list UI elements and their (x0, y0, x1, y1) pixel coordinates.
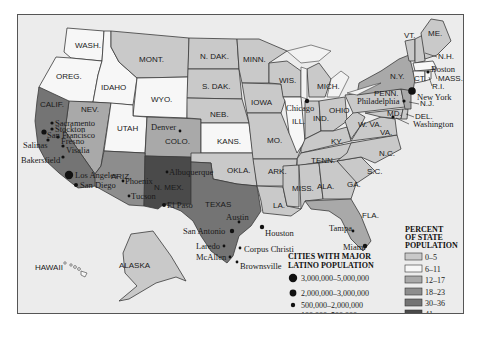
svg-text:POPULATION: POPULATION (405, 241, 458, 250)
svg-text:Los Angeles: Los Angeles (75, 170, 117, 180)
svg-text:OREG.: OREG. (56, 72, 82, 81)
svg-text:18–23: 18–23 (425, 288, 445, 297)
svg-text:COLO.: COLO. (165, 137, 190, 146)
svg-text:Corpus Christi: Corpus Christi (244, 244, 294, 254)
svg-text:IND.: IND. (313, 114, 329, 123)
svg-text:ILL.: ILL. (292, 117, 305, 126)
svg-text:ME.: ME. (428, 29, 442, 38)
svg-text:N. MEX.: N. MEX. (154, 183, 184, 192)
svg-text:WYO.: WYO. (151, 95, 172, 104)
svg-text:MICH.: MICH. (317, 82, 340, 91)
svg-text:Boston: Boston (431, 64, 456, 74)
svg-text:Laredo: Laredo (196, 241, 220, 251)
svg-text:Bakersfield: Bakersfield (21, 155, 61, 165)
svg-text:Tucson: Tucson (131, 191, 156, 201)
svg-text:Tampa: Tampa (329, 223, 352, 233)
svg-text:Phoenix: Phoenix (125, 176, 154, 186)
svg-text:IDAHO: IDAHO (101, 83, 126, 92)
percent-legend: PERCENT OF STATE POPULATION 0–5 6–11 12–… (405, 225, 458, 314)
svg-text:San Diego: San Diego (80, 180, 116, 190)
svg-text:MISS.: MISS. (292, 184, 314, 193)
svg-text:Houston: Houston (265, 228, 295, 238)
svg-text:Philadelphia: Philadelphia (357, 96, 400, 106)
svg-text:TEXAS: TEXAS (205, 200, 231, 209)
svg-text:MO.: MO. (267, 136, 282, 145)
svg-text:Miami: Miami (343, 242, 366, 252)
svg-text:W. VA.: W. VA. (358, 120, 382, 129)
state-hawaii (64, 262, 87, 277)
svg-text:KANS.: KANS. (217, 137, 241, 146)
us-map: WASH. OREG. IDAHO MONT. WYO. N. DAK. S. … (18, 15, 464, 314)
svg-text:N.Y.: N.Y. (390, 72, 405, 81)
svg-text:NEB.: NEB. (210, 110, 229, 119)
svg-text:LATINO POPULATION: LATINO POPULATION (288, 261, 374, 270)
svg-text:KY.: KY. (331, 137, 343, 146)
svg-text:MASS.: MASS. (438, 74, 463, 83)
svg-text:41: 41 (425, 310, 433, 314)
svg-text:LA.: LA. (273, 201, 285, 210)
svg-text:Austin: Austin (226, 212, 249, 222)
svg-text:MONT.: MONT. (139, 55, 164, 64)
svg-text:Salinas: Salinas (23, 140, 48, 150)
svg-text:30–36: 30–36 (425, 299, 445, 308)
svg-text:12–17: 12–17 (425, 276, 445, 285)
svg-text:0–5: 0–5 (425, 253, 437, 262)
svg-text:R.I.: R.I. (432, 82, 444, 91)
svg-text:ALA.: ALA. (317, 182, 334, 191)
svg-text:Denver: Denver (151, 122, 176, 132)
svg-text:El Paso: El Paso (167, 200, 193, 210)
svg-text:N. DAK.: N. DAK. (200, 52, 229, 61)
svg-text:IOWA: IOWA (251, 98, 273, 107)
svg-text:Brownsville: Brownsville (240, 261, 282, 271)
city-size-legend: CITIES WITH MAJOR LATINO POPULATION 3,00… (288, 252, 374, 314)
svg-text:Visalia: Visalia (66, 145, 90, 155)
map-frame: WASH. OREG. IDAHO MONT. WYO. N. DAK. S. … (17, 14, 464, 314)
state-michigan (307, 63, 331, 97)
svg-text:100,000–500,000: 100,000–500,000 (301, 311, 357, 314)
svg-text:VT.: VT. (404, 31, 416, 40)
svg-text:N.H.: N.H. (438, 52, 454, 61)
svg-text:6–11: 6–11 (425, 265, 441, 274)
svg-text:NEV.: NEV. (81, 105, 99, 114)
svg-text:S. DAK.: S. DAK. (202, 82, 230, 91)
svg-text:VA.: VA. (380, 128, 392, 137)
svg-text:S.C.: S.C. (367, 167, 383, 176)
svg-text:ALASKA: ALASKA (119, 261, 151, 270)
svg-text:500,000–2,000,000: 500,000–2,000,000 (301, 301, 363, 310)
svg-text:WASH.: WASH. (75, 41, 101, 50)
svg-text:2,000,000–3,000,000: 2,000,000–3,000,000 (301, 289, 369, 298)
svg-text:CITIES WITH MAJOR: CITIES WITH MAJOR (288, 252, 371, 261)
svg-text:Albuquerque: Albuquerque (169, 167, 214, 177)
svg-text:TENN.: TENN. (311, 156, 335, 165)
svg-text:UTAH: UTAH (117, 124, 138, 133)
svg-text:OKLA.: OKLA. (227, 166, 251, 175)
svg-text:OHIO: OHIO (329, 106, 349, 115)
svg-text:CALIF.: CALIF. (40, 100, 64, 109)
svg-text:New York: New York (417, 92, 452, 102)
svg-text:HAWAII: HAWAII (35, 263, 63, 272)
svg-text:ARK.: ARK. (268, 167, 287, 176)
svg-text:Chicago: Chicago (286, 103, 314, 113)
svg-text:GA.: GA. (347, 180, 361, 189)
svg-text:CT.: CT. (414, 74, 426, 83)
svg-text:San Antonio: San Antonio (183, 226, 225, 236)
svg-text:WIS.: WIS. (279, 76, 296, 85)
svg-text:FLA.: FLA. (362, 211, 379, 220)
svg-text:3,000,000–5,000,000: 3,000,000–5,000,000 (301, 274, 369, 283)
svg-text:McAllen: McAllen (196, 252, 227, 262)
svg-text:N.C.: N.C. (379, 149, 395, 158)
svg-text:Washington: Washington (413, 119, 454, 129)
svg-text:MINN.: MINN. (243, 55, 266, 64)
